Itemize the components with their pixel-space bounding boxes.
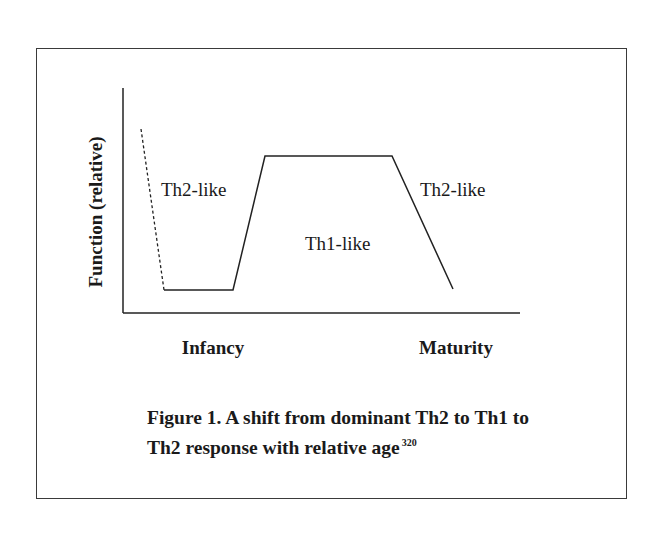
caption-line-2-text: Th2 response with relative age bbox=[147, 437, 400, 458]
caption-line-2: Th2 response with relative age320 bbox=[147, 430, 587, 460]
function-curve-line bbox=[164, 156, 453, 290]
x-tick-label-maturity: Maturity bbox=[419, 337, 493, 358]
annotation-th2-like-left: Th2-like bbox=[161, 179, 226, 200]
annotation-th1-like: Th1-like bbox=[305, 233, 370, 254]
caption-line-1: Figure 1. A shift from dominant Th2 to T… bbox=[147, 405, 587, 430]
y-axis-label: Function (relative) bbox=[85, 136, 107, 287]
caption-reference-number: 320 bbox=[402, 437, 417, 448]
x-tick-label-infancy: Infancy bbox=[182, 337, 245, 358]
dashed-th2-decline-line bbox=[141, 129, 164, 290]
annotation-th2-like-right: Th2-like bbox=[420, 179, 485, 200]
figure-caption: Figure 1. A shift from dominant Th2 to T… bbox=[147, 405, 587, 460]
